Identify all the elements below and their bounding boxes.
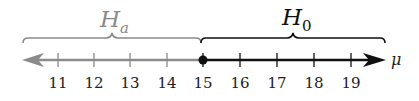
svg-text:14: 14	[157, 74, 176, 92]
svg-text:18: 18	[304, 74, 323, 92]
svg-text:16: 16	[230, 74, 249, 92]
svg-text:12: 12	[84, 74, 103, 92]
h0-label: H0	[281, 4, 312, 35]
svg-text:11: 11	[48, 74, 67, 92]
ha-label: Ha	[99, 6, 129, 37]
h0-brace	[201, 33, 385, 43]
svg-text:17: 17	[267, 74, 286, 92]
svg-text:19: 19	[341, 74, 360, 92]
mu-axis-label: μ	[391, 50, 401, 69]
svg-text:13: 13	[120, 74, 139, 92]
tick-labels: 11 12 13 14 15 16 17 18 19	[48, 74, 360, 92]
number-line-diagram: Ha H0 11 12 13 14 15 16 17 18 19 μ	[0, 0, 419, 101]
svg-text:15: 15	[193, 74, 212, 92]
ha-brace	[23, 33, 201, 43]
